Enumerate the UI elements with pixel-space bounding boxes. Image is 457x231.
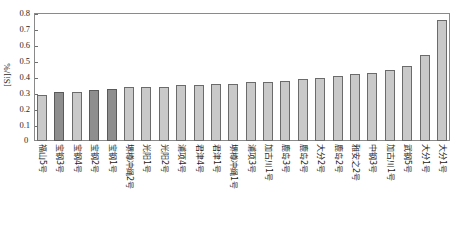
- x-axis-label-cell: 君津1号: [211, 144, 221, 230]
- x-axis-label-cell: 浦项3号: [246, 144, 256, 230]
- bar: [194, 85, 204, 141]
- x-axis-label-cell: 君津4号: [194, 144, 204, 230]
- bar: [315, 78, 325, 142]
- bars-container: [35, 14, 449, 141]
- x-axis-label-cell: 浦项4号: [176, 144, 186, 230]
- bar: [211, 84, 221, 141]
- x-axis-label-text: 堺樽冲绳2号: [125, 144, 133, 189]
- x-axis-label-text: 福山5号: [38, 144, 46, 173]
- bar: [367, 73, 377, 141]
- bar: [350, 74, 360, 141]
- y-axis-tick-label: 0.3: [19, 89, 30, 98]
- x-axis-label-text: 武钢5号: [403, 144, 411, 173]
- bar: [228, 84, 238, 141]
- x-axis-label-text: 堺樽冲绳1号: [229, 144, 237, 189]
- x-axis-label-cell: 加古川1号: [385, 144, 395, 230]
- x-axis-label-cell: 中钢3号: [367, 144, 377, 230]
- x-axis-label-cell: 宝钢2号: [89, 144, 99, 230]
- bar: [54, 92, 64, 141]
- bar-chart: [Si]/% 0.80.70.60.50.40.30.20.1 0 福山5号宝钢…: [0, 0, 457, 231]
- y-axis-tick-label: 0.6: [19, 41, 30, 50]
- bar: [37, 95, 47, 141]
- x-axis-label-cell: 武钢5号: [402, 144, 412, 230]
- bar: [298, 79, 308, 141]
- x-axis-label-text: 宝钢1号: [108, 144, 116, 173]
- x-axis-label-text: 宝钢4号: [73, 144, 81, 173]
- bar: [280, 81, 290, 141]
- y-axis-origin-label: 0: [24, 136, 28, 145]
- x-axis-labels: 福山5号宝钢3号宝钢4号宝钢2号宝钢1号堺樽冲绳2号光阳1号光阳2号浦项4号君津…: [35, 144, 449, 230]
- x-axis-label-text: 雅安之2号: [351, 144, 359, 181]
- bar: [89, 90, 99, 141]
- bar: [437, 20, 447, 141]
- bar: [246, 82, 256, 141]
- x-axis-label-text: 浦项3号: [247, 144, 255, 173]
- x-axis-label-cell: 宝钢3号: [54, 144, 64, 230]
- bar: [402, 66, 412, 141]
- x-axis-label-text: 大分2号: [316, 144, 324, 173]
- x-axis-label-cell: 大分1号: [420, 144, 430, 230]
- bar: [141, 87, 151, 141]
- x-axis-label-cell: 鹿岛3号: [280, 144, 290, 230]
- x-axis-label-text: 大分1号: [421, 144, 429, 173]
- x-axis-label-cell: 鹿岛2号: [333, 144, 343, 230]
- x-axis-label-text: 加古川1号: [386, 144, 394, 181]
- x-axis-label-cell: 光阳1号: [141, 144, 151, 230]
- y-axis-tick-label: 0.8: [19, 9, 30, 18]
- x-axis-label-text: 光阳2号: [160, 144, 168, 173]
- bar: [385, 70, 395, 141]
- x-axis-label-text: 鹿岛3号: [281, 144, 289, 173]
- x-axis-label-text: 中钢3号: [368, 144, 376, 173]
- x-axis-label-text: 君津1号: [212, 144, 220, 173]
- x-axis-label-text: 大分1号: [438, 144, 446, 173]
- y-axis-title-text: [Si]/%: [2, 63, 12, 87]
- y-axis-tick-labels: 0.80.70.60.50.40.30.20.1: [12, 13, 32, 141]
- x-axis-label-text: 宝钢2号: [90, 144, 98, 173]
- y-axis-tick-label: 0.5: [19, 57, 30, 66]
- x-axis-label-cell: 宝钢1号: [107, 144, 117, 230]
- x-axis-label-cell: 大分2号: [315, 144, 325, 230]
- bar: [159, 87, 169, 141]
- x-axis-label-cell: 加古川1号: [263, 144, 273, 230]
- x-axis-label-cell: 雅安之2号: [350, 144, 360, 230]
- bar: [124, 87, 134, 141]
- y-axis-tick-label: 0.1: [19, 121, 30, 130]
- y-axis-tick-label: 0.7: [19, 25, 30, 34]
- x-axis-label-text: 君津4号: [195, 144, 203, 173]
- x-axis-label-cell: 光阳2号: [159, 144, 169, 230]
- y-axis-tick-label: 0.4: [19, 73, 30, 82]
- x-axis-label-text: 鹿岛2号: [334, 144, 342, 173]
- bar: [420, 55, 430, 141]
- bar: [176, 85, 186, 141]
- x-axis-label-text: 宝钢3号: [55, 144, 63, 173]
- y-axis-tick-label: 0.2: [19, 105, 30, 114]
- x-axis-label-text: 浦项4号: [177, 144, 185, 173]
- x-axis-label-text: 光阳1号: [142, 144, 150, 173]
- bar: [333, 76, 343, 141]
- x-axis-label-cell: 堺樽冲绳1号: [228, 144, 238, 230]
- bar: [107, 89, 117, 141]
- bar: [72, 92, 82, 141]
- x-axis-label-cell: 大分1号: [437, 144, 447, 230]
- x-axis-label-text: 加古川1号: [264, 144, 272, 181]
- x-axis-label-cell: 堺樽冲绳2号: [124, 144, 134, 230]
- bar: [263, 82, 273, 141]
- x-axis-label-cell: 鹿岛2号: [298, 144, 308, 230]
- x-axis-label-cell: 宝钢4号: [72, 144, 82, 230]
- x-axis-label-cell: 福山5号: [37, 144, 47, 230]
- x-axis-label-text: 鹿岛2号: [299, 144, 307, 173]
